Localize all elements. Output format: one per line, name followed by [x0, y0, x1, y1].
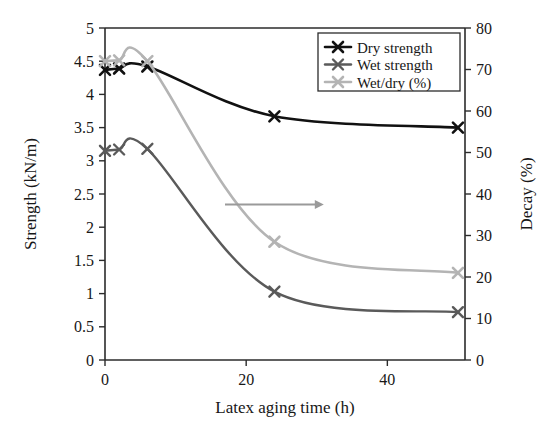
y-tick-label-left: 5 — [86, 20, 94, 37]
y-axis-title-right: Decay (%) — [517, 157, 536, 230]
y-tick-label-right: 40 — [476, 186, 492, 203]
y-tick-label-left: 4.5 — [74, 53, 94, 70]
y-axis-title-left: Strength (kN/m) — [21, 138, 40, 250]
y-tick-label-right: 80 — [476, 20, 492, 37]
y-tick-label-left: 1 — [86, 285, 94, 302]
legend: Dry strengthWet strengthWet/dry (%) — [318, 33, 460, 92]
line-chart: 00.511.522.533.544.550102030405060708002… — [0, 0, 559, 435]
x-tick-label: 40 — [379, 371, 395, 388]
series-2 — [100, 138, 463, 317]
y-tick-label-right: 60 — [476, 103, 492, 120]
y-tick-label-right: 30 — [476, 227, 492, 244]
legend-item-label: Wet strength — [357, 57, 433, 73]
y-tick-label-left: 4 — [86, 86, 94, 103]
series-line — [105, 138, 458, 312]
chart-figure: 00.511.522.533.544.550102030405060708002… — [0, 0, 559, 435]
y-tick-label-right: 20 — [476, 269, 492, 286]
data-point-marker — [269, 237, 279, 247]
y-tick-label-left: 1.5 — [74, 252, 94, 269]
y-tick-label-left: 0.5 — [74, 318, 94, 335]
y-tick-label-left: 2.5 — [74, 186, 94, 203]
y-tick-label-left: 2 — [86, 219, 94, 236]
legend-item-label: Dry strength — [357, 40, 433, 56]
y-tick-label-left: 0 — [86, 352, 94, 369]
y-tick-label-right: 70 — [476, 61, 492, 78]
x-tick-label: 20 — [238, 371, 254, 388]
x-axis-title: Latex aging time (h) — [215, 398, 354, 417]
x-tick-label: 0 — [101, 371, 109, 388]
y-tick-label-right: 0 — [476, 352, 484, 369]
y-tick-label-left: 3.5 — [74, 119, 94, 136]
data-point-marker — [142, 144, 152, 154]
arrow-head — [315, 200, 324, 209]
y-tick-label-right: 50 — [476, 144, 492, 161]
data-point-marker — [269, 287, 279, 297]
y-tick-label-right: 10 — [476, 310, 492, 327]
legend-item-label: Wet/dry (%) — [357, 75, 431, 92]
y-tick-label-left: 3 — [86, 152, 94, 169]
